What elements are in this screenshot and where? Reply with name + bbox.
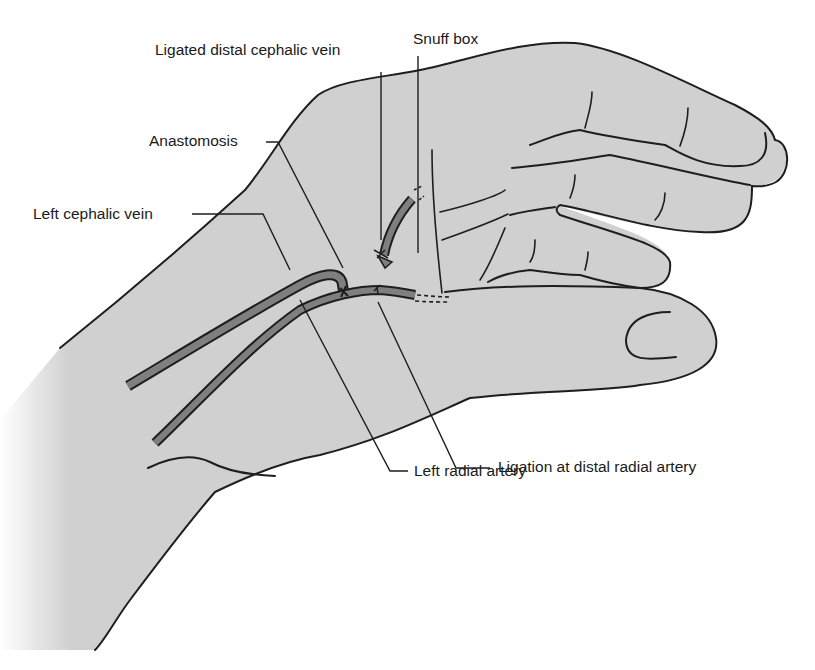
label-left-cephalic-vein: Left cephalic vein: [33, 205, 153, 223]
label-snuff-box: Snuff box: [413, 30, 478, 48]
hand-fistula-diagram: Ligated distal cephalic vein Snuff box A…: [0, 0, 815, 670]
label-ligated-distal-cephalic-vein: Ligated distal cephalic vein: [155, 41, 340, 59]
hand-silhouette: [0, 43, 787, 670]
label-ligation-distal-radial-artery: Ligation at distal radial artery: [498, 458, 696, 476]
diagram-canvas: [0, 0, 815, 670]
label-left-radial-artery: Left radial artery: [414, 462, 526, 480]
label-anastomosis: Anastomosis: [149, 132, 238, 150]
